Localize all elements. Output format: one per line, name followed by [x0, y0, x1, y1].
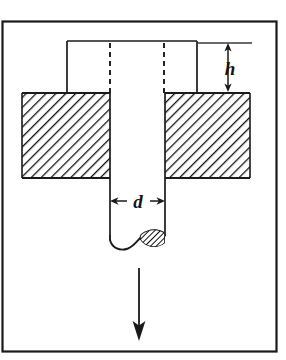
dimension-d-label: d [133, 191, 143, 212]
dimension-h-label: h [225, 58, 236, 79]
punching-diagram-figure: h d [0, 0, 286, 360]
punch-shaft-body [111, 93, 164, 238]
die-hatch-fill-right [165, 93, 250, 178]
punch-shaft [110, 93, 165, 238]
die-plate-right-block [165, 93, 250, 178]
die-hatch-fill-left [22, 93, 110, 178]
diagram-canvas: h d [0, 0, 286, 360]
die-plate-left-block [22, 93, 110, 178]
